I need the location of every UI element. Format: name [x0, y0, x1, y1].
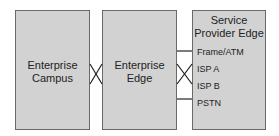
connectors	[0, 0, 279, 136]
